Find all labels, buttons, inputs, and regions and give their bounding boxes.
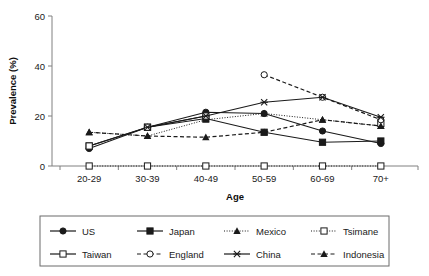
x-axis-tick-label: 40-49	[194, 173, 218, 184]
series-us	[86, 109, 384, 151]
x-axis-title: Age	[226, 191, 244, 202]
data-point-open-square	[378, 163, 384, 169]
data-point-open-circle	[147, 251, 153, 257]
y-axis-tick-label: 40	[34, 61, 45, 72]
y-axis-tick-label: 0	[40, 161, 45, 172]
series-line-us	[89, 112, 381, 148]
data-point-open-square	[321, 228, 327, 234]
x-axis-tick-label: 60-69	[310, 173, 334, 184]
data-point-open-circle	[261, 72, 267, 78]
legend-label: Tsimane	[343, 226, 378, 237]
legend-label: China	[256, 249, 282, 260]
data-point-open-square	[86, 163, 92, 169]
x-axis-tick-label: 70+	[373, 173, 390, 184]
y-axis-tick-label: 60	[34, 11, 45, 22]
legend-label: Indonesia	[343, 249, 385, 260]
data-point-filled-square	[378, 138, 384, 144]
data-point-open-square	[144, 163, 150, 169]
data-point-open-square	[86, 143, 92, 149]
x-axis-tick-label: 50-59	[252, 173, 276, 184]
data-point-star	[260, 99, 267, 105]
data-point-filled-square	[319, 139, 325, 145]
series-indonesia	[85, 116, 384, 140]
data-point-open-square	[60, 251, 66, 257]
series-taiwan	[86, 113, 384, 149]
data-point-filled-circle	[60, 228, 66, 234]
legend-label: England	[169, 249, 204, 260]
x-axis-tick-label: 20-29	[77, 173, 101, 184]
chart-canvas: 020406020-2930-3940-4950-5960-6970+AgePr…	[0, 0, 429, 276]
chart-legend: USJapanMexicoTsimaneTaiwanEnglandChinaIn…	[40, 216, 389, 266]
x-axis-tick-label: 30-39	[135, 173, 159, 184]
legend-label: Taiwan	[82, 249, 112, 260]
data-point-filled-square	[147, 228, 153, 234]
legend-label: US	[82, 226, 95, 237]
data-point-open-square	[203, 163, 209, 169]
y-axis-tick-label: 20	[34, 111, 45, 122]
y-axis-title: Prevalence (%)	[7, 57, 18, 125]
legend-label: Mexico	[256, 226, 286, 237]
data-point-open-square	[261, 163, 267, 169]
prevalence-by-age-chart: 020406020-2930-3940-4950-5960-6970+AgePr…	[0, 0, 429, 276]
data-point-open-square	[319, 163, 325, 169]
legend-label: Japan	[169, 226, 195, 237]
data-point-filled-circle	[319, 128, 325, 134]
